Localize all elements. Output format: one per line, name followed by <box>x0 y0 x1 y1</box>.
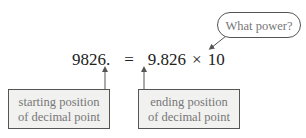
ending-position-line1: ending position <box>139 95 239 110</box>
ending-position-box: ending position of decimal point <box>138 89 240 129</box>
what-power-bubble: What power? <box>217 12 301 38</box>
starting-position-line1: starting position <box>9 95 109 110</box>
starting-position-line2: of decimal point <box>9 110 109 125</box>
starting-position-box: starting position of decimal point <box>8 89 110 129</box>
bubble-arrow-icon <box>211 36 226 48</box>
ending-position-line2: of decimal point <box>139 110 239 125</box>
